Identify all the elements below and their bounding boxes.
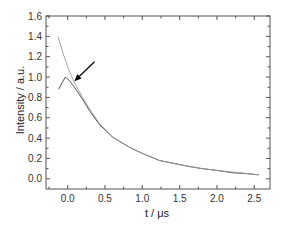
y-tick-label: 1.0	[28, 72, 42, 83]
arrow-shaft	[79, 62, 94, 76]
y-tick-label: 0.2	[28, 153, 42, 164]
x-tick-label: 1.0	[135, 193, 149, 204]
x-tick-label: 1.5	[173, 193, 187, 204]
y-tick-label: 1.6	[28, 11, 42, 22]
y-tick-label: 1.4	[28, 31, 42, 42]
data-series	[58, 36, 259, 174]
x-tick-label: 0.5	[98, 193, 112, 204]
y-tick-label: 0.6	[28, 112, 42, 123]
plot-border	[46, 16, 270, 189]
y-tick-label: 0.0	[28, 173, 42, 184]
annotation-arrow	[74, 62, 94, 81]
y-tick-label: 0.8	[28, 92, 42, 103]
y-tick-label: 0.4	[28, 133, 42, 144]
axis-ticks	[46, 16, 270, 189]
decay-chart: 0.00.51.01.52.02.5 0.00.20.40.60.81.01.2…	[0, 0, 286, 228]
x-axis-label: t / μs	[145, 207, 170, 219]
series-fit	[58, 36, 259, 174]
plot-frame	[46, 16, 270, 189]
y-axis-label: Intensity / a.u.	[14, 66, 26, 134]
y-tick-labels: 0.00.20.40.60.81.01.21.41.6	[28, 11, 42, 185]
y-tick-label: 1.2	[28, 51, 42, 62]
x-tick-label: 0.0	[61, 193, 75, 204]
x-tick-labels: 0.00.51.01.52.02.5	[61, 193, 262, 204]
x-tick-label: 2.0	[210, 193, 224, 204]
x-tick-label: 2.5	[247, 193, 261, 204]
